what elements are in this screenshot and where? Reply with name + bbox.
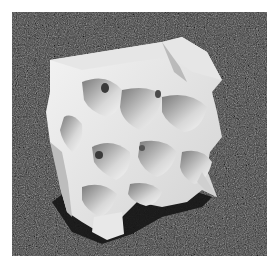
gyroid-render <box>12 12 267 256</box>
pore-core <box>139 145 145 151</box>
pore-core <box>155 90 161 98</box>
pore-core <box>95 151 103 159</box>
photo: White gyroid lattice structure on gravel <box>12 12 267 256</box>
pore-core <box>101 83 109 93</box>
